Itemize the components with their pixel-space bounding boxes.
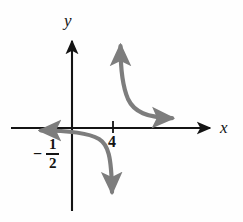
x-axis-label: x	[220, 119, 228, 136]
hyperbola-graph-svg	[0, 0, 243, 222]
minus-sign: −	[33, 146, 42, 162]
tick-label-x-4: 4	[108, 134, 116, 150]
graph-figure: y x 4 − 1 2	[0, 0, 243, 222]
fraction-one-half: 1 2	[46, 137, 59, 171]
y-intercept-label: − 1 2	[33, 137, 59, 171]
y-axis-label: y	[64, 12, 72, 29]
fraction-denominator: 2	[47, 155, 59, 171]
figure-background	[0, 0, 243, 222]
fraction-numerator: 1	[47, 137, 59, 153]
